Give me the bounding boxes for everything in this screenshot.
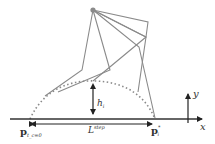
- y-axis-label: y: [192, 88, 199, 99]
- leg-pose-6: [93, 10, 146, 37]
- leg-pose-2: [58, 10, 110, 92]
- hip-joint: [90, 7, 95, 12]
- leg-pose-3: [93, 10, 146, 81]
- end-point-label: p*i: [151, 124, 161, 137]
- height-arrowhead-top: [90, 83, 96, 89]
- start-point-label: pt_c=0: [20, 126, 42, 139]
- swing-trajectory-diagram: pt_c=0 Lstep p*i hi x y: [0, 0, 215, 144]
- x-axis-label: x: [200, 121, 206, 132]
- step-length-arrowhead-left: [30, 121, 36, 127]
- step-length-label: Lstep: [87, 124, 106, 135]
- height-label: hi: [97, 98, 105, 109]
- leg-pose-1: [45, 10, 93, 96]
